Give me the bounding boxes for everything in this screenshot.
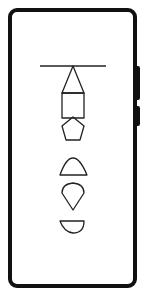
pentagon xyxy=(62,117,84,140)
teardrop xyxy=(62,183,84,210)
square xyxy=(62,93,84,118)
triangle xyxy=(62,66,84,93)
dome xyxy=(60,158,87,175)
half-disc xyxy=(60,221,84,233)
shape-diagram xyxy=(0,0,145,297)
